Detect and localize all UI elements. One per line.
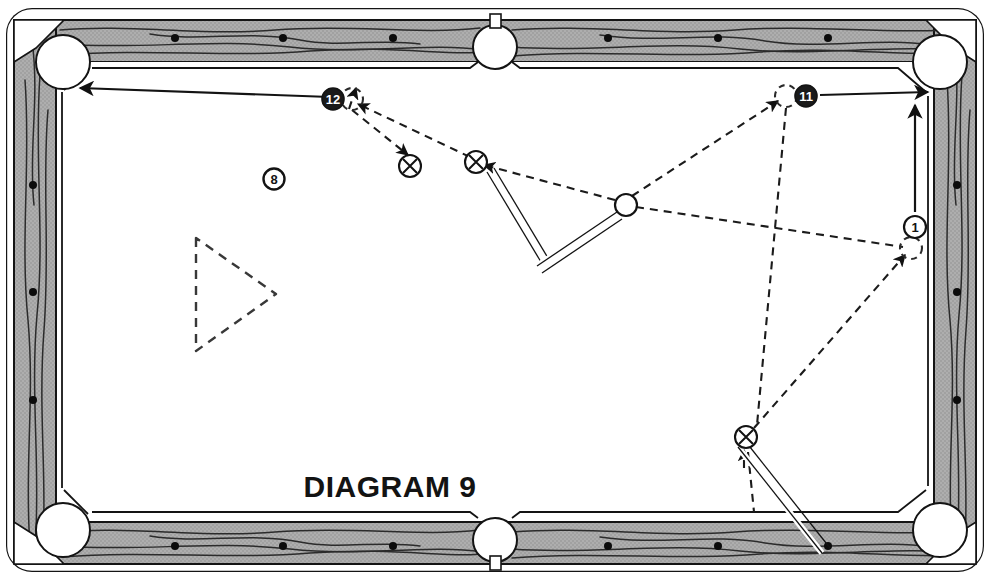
ball-1[interactable]: 1 <box>904 216 926 238</box>
pocket-top-side-tab <box>490 14 501 28</box>
sight-dot <box>29 181 37 189</box>
sight-dot <box>171 34 179 42</box>
cloth-playfield <box>60 62 930 518</box>
ball-12-label: 12 <box>326 92 340 107</box>
ball-8[interactable]: 8 <box>264 169 285 190</box>
ball-11-label: 11 <box>799 89 813 104</box>
sight-dot <box>29 288 37 296</box>
sight-dot <box>279 34 287 42</box>
sight-dot <box>714 542 722 550</box>
diagram-caption: DIAGRAM 9 <box>304 470 477 503</box>
ball-8-label: 8 <box>270 172 277 187</box>
pocket-bottom-left[interactable] <box>36 503 90 557</box>
cue-ball-group <box>615 194 637 216</box>
ball-11[interactable]: 11 <box>795 85 817 107</box>
ball-1-label: 1 <box>911 220 918 235</box>
sight-dot <box>171 542 179 550</box>
pocket-bottom-side-tab <box>490 556 501 570</box>
sight-dot <box>604 34 612 42</box>
diagram-canvas: 12 8 11 1 DIAGRAM 9 <box>0 0 990 580</box>
cue-ball-center[interactable] <box>615 194 637 216</box>
sight-dot <box>953 396 961 404</box>
pocket-bottom-right[interactable] <box>913 503 967 557</box>
x-ball-lower[interactable] <box>735 426 757 448</box>
sight-dot <box>714 34 722 42</box>
sight-dot <box>824 34 832 42</box>
sight-dot <box>29 396 37 404</box>
table-body <box>6 8 984 572</box>
pocket-top-side[interactable] <box>473 25 517 69</box>
pocket-top-left[interactable] <box>36 35 90 89</box>
sight-dot <box>953 181 961 189</box>
x-ball-upper-right[interactable] <box>465 151 487 173</box>
sight-dot <box>389 542 397 550</box>
sight-dot <box>953 288 961 296</box>
ball-12[interactable]: 12 <box>322 88 344 110</box>
pocket-top-right[interactable] <box>913 35 967 89</box>
x-ball-upper-left[interactable] <box>399 155 421 177</box>
sight-dot <box>279 542 287 550</box>
sight-dot <box>389 34 397 42</box>
sight-dot <box>604 542 612 550</box>
pool-table-diagram: 12 8 11 1 DIAGRAM 9 <box>0 0 990 580</box>
